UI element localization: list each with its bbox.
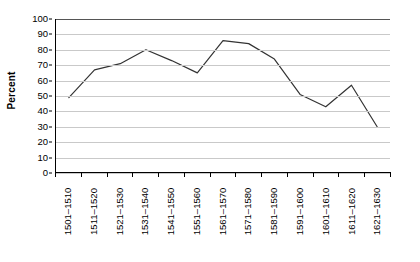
x-tick-label-text: 1511–1520: [88, 188, 99, 235]
x-tick-label-text: 1521–1530: [114, 188, 125, 236]
x-tick-label-text: 1581–1590: [269, 188, 280, 236]
y-tick-label: 20: [37, 137, 48, 147]
x-tick-label-text: 1611–1620: [346, 188, 357, 235]
y-tick-label: 30: [37, 122, 48, 132]
x-axis-tick-labels: 1501–15101511–15201521–15301531–15401541…: [55, 178, 391, 258]
y-tick-mark: [49, 19, 52, 20]
y-tick-label: 70: [37, 60, 48, 70]
x-tick-label: 1551–1560: [190, 178, 204, 254]
x-tick-label-text: 1621–1630: [372, 188, 383, 236]
y-tick-mark: [49, 34, 52, 35]
x-tick-label-text: 1561–1570: [217, 188, 228, 236]
gridline: [56, 158, 390, 159]
y-axis-title: Percent: [0, 0, 22, 180]
y-tick-label: 60: [37, 76, 48, 86]
x-tick-label-text: 1591–1600: [294, 188, 305, 236]
x-tick-label: 1561–1570: [216, 178, 230, 254]
x-tick-label-text: 1501–1510: [62, 188, 73, 236]
x-tick-label-text: 1541–1550: [165, 188, 176, 236]
x-tick-label-text: 1601–1610: [320, 188, 331, 236]
x-tick-label-text: 1531–1540: [140, 188, 151, 236]
x-tick-label: 1581–1590: [267, 178, 281, 254]
x-tick-label-text: 1571–1580: [243, 188, 254, 236]
x-tick-label: 1511–1520: [87, 178, 101, 254]
gridline: [56, 65, 390, 66]
x-tick-label: 1621–1630: [370, 178, 384, 254]
x-tick-mark: [55, 173, 56, 177]
x-tick-mark: [364, 173, 365, 177]
x-tick-label: 1591–1600: [293, 178, 307, 254]
y-tick-label: 40: [37, 107, 48, 117]
y-tick-mark: [49, 126, 52, 127]
gridline: [56, 81, 390, 82]
x-tick-mark: [313, 173, 314, 177]
x-tick-mark: [158, 173, 159, 177]
y-tick-mark: [49, 157, 52, 158]
x-tick-mark: [261, 173, 262, 177]
x-tick-mark: [210, 173, 211, 177]
y-axis-tick-labels: 1009080706050403020100: [20, 13, 52, 173]
x-tick-mark: [390, 173, 391, 177]
series-polyline: [69, 41, 377, 127]
y-tick-label: 90: [37, 30, 48, 40]
line-chart: Percent 1009080706050403020100 1501–1510…: [0, 0, 420, 262]
x-tick-label: 1531–1540: [138, 178, 152, 254]
x-tick-mark: [184, 173, 185, 177]
x-tick-label: 1541–1550: [164, 178, 178, 254]
y-tick-mark: [49, 80, 52, 81]
x-tick-label: 1601–1610: [319, 178, 333, 254]
plot-area: [55, 19, 390, 173]
gridline: [56, 111, 390, 112]
gridline: [56, 50, 390, 51]
x-tick-mark: [107, 173, 108, 177]
y-axis-title-label: Percent: [6, 71, 17, 109]
y-tick-label: 50: [37, 91, 48, 101]
y-tick-label: 100: [32, 14, 48, 24]
x-tick-label-text: 1551–1560: [191, 188, 202, 236]
y-tick-label: 0: [43, 168, 48, 178]
y-tick-mark: [49, 96, 52, 97]
y-tick-mark: [49, 49, 52, 50]
y-tick-label: 10: [37, 153, 48, 163]
y-tick-mark: [49, 173, 52, 174]
x-tick-mark: [287, 173, 288, 177]
x-tick-mark: [338, 173, 339, 177]
x-tick-mark: [81, 173, 82, 177]
x-tick-label: 1521–1530: [112, 178, 126, 254]
gridline: [56, 142, 390, 143]
gridline: [56, 127, 390, 128]
gridline: [56, 19, 390, 20]
x-tick-label: 1571–1580: [241, 178, 255, 254]
x-tick-label: 1501–1510: [61, 178, 75, 254]
x-tick-label: 1611–1620: [344, 178, 358, 254]
x-tick-mark: [235, 173, 236, 177]
y-tick-mark: [49, 142, 52, 143]
gridline: [56, 96, 390, 97]
gridline: [56, 34, 390, 35]
x-tick-mark: [132, 173, 133, 177]
y-tick-mark: [49, 65, 52, 66]
y-tick-label: 80: [37, 45, 48, 55]
y-tick-mark: [49, 111, 52, 112]
